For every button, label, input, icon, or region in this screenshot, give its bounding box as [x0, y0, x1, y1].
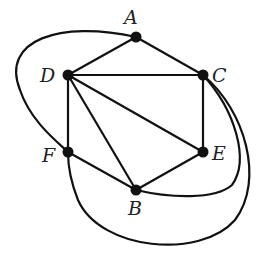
curved-edge-C-B — [136, 75, 240, 196]
edge-A-D — [68, 37, 136, 75]
vertex-C — [198, 70, 209, 81]
edge-B-E — [136, 152, 203, 190]
vertex-label-F: F — [41, 144, 56, 166]
vertex-A — [131, 32, 142, 43]
vertex-label-E: E — [211, 142, 226, 164]
edge-D-E — [68, 75, 203, 152]
vertex-label-C: C — [212, 64, 227, 86]
graph-diagram: ADCFEB — [0, 0, 260, 253]
curved-edge-A-F — [16, 31, 136, 152]
vertex-label-D: D — [39, 64, 55, 86]
vertex-E — [198, 147, 209, 158]
edge-D-B — [68, 75, 136, 190]
vertex-F — [63, 147, 74, 158]
vertex-D — [63, 70, 74, 81]
vertex-B — [131, 185, 142, 196]
vertex-label-B: B — [127, 197, 142, 219]
vertex-label-A: A — [122, 6, 138, 28]
edge-A-C — [136, 37, 203, 75]
